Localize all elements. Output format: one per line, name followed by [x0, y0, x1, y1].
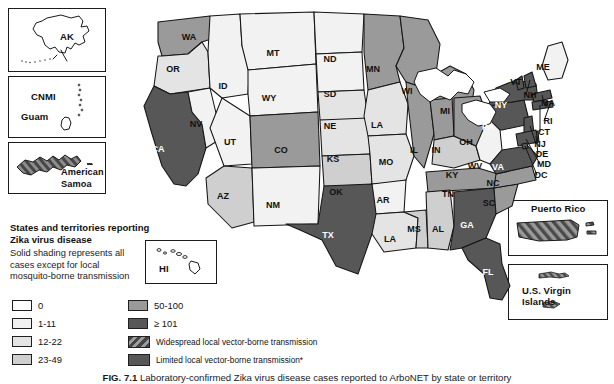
figure-zika-map: AK CNMI Guam American [0, 0, 614, 384]
state-label-wi: WI [402, 86, 413, 96]
state-label-dc: DC [535, 170, 548, 180]
inset-cnmi-guam: CNMI Guam [8, 76, 106, 138]
state-label-ny: NY [495, 100, 508, 110]
state-label-sc: SC [483, 198, 496, 208]
legend-swatch-3 [12, 354, 32, 365]
state-mn [364, 14, 404, 90]
state-nm [252, 166, 320, 226]
inset-american-samoa: American Samoa [8, 142, 106, 194]
legend-label-1: 1-11 [38, 318, 56, 329]
legend-label-limited: Limited local vector-borne transmission* [156, 355, 303, 365]
state-label-mn: MN [366, 64, 380, 74]
legend-note-line2: cases except for local [10, 260, 99, 270]
legend-swatch-2 [12, 336, 32, 347]
state-label-il: IL [410, 145, 419, 155]
legend-swatch-0 [12, 300, 32, 311]
legend-swatch-limited [128, 354, 150, 366]
legend-swatch-widespread [128, 336, 150, 348]
legend-note-line3: mosquito-borne transmission [10, 271, 129, 281]
state-label-az: AZ [217, 191, 229, 201]
state-mt [240, 12, 316, 70]
inset-alaska: AK [8, 8, 106, 72]
state-label-ks: KS [327, 154, 340, 164]
state-label-sd: SD [324, 89, 337, 99]
legend-item-widespread: Widespread local vector-borne transmissi… [128, 336, 317, 348]
state-label-nj: NJ [534, 139, 546, 149]
inset-label-ak: AK [60, 31, 74, 42]
state-label-ne: NE [324, 121, 337, 131]
inset-label-guam: Guam [21, 111, 48, 122]
legend-label-0: 0 [38, 300, 43, 311]
states-layer [144, 12, 568, 300]
state-label-mi: MI [440, 106, 450, 116]
state-in [430, 98, 454, 140]
state-label-ky: KY [446, 170, 459, 180]
state-label-ar: AR [377, 195, 390, 205]
state-label-or: OR [166, 64, 180, 74]
state-label-ga: GA [460, 220, 474, 230]
legend-title-line2: Zika virus disease [10, 234, 92, 245]
state-label-ms: MS [407, 224, 421, 234]
state-label-id: ID [219, 81, 229, 91]
state-label-co: CO [274, 145, 288, 155]
state-label-nc: NC [487, 178, 500, 188]
state-label-nm: NM [266, 200, 280, 210]
legend-swatch-1 [12, 318, 32, 329]
legend-item-2: 12-22 [12, 336, 62, 347]
state-label-fl: FL [483, 267, 494, 277]
legend-item-1: 1-11 [12, 318, 56, 329]
state-label-ca: CA [152, 144, 165, 154]
state-label-wv: WV [468, 161, 483, 171]
inset-label-samoa: Samoa [61, 179, 92, 189]
state-label-de: DE [536, 149, 549, 159]
us-map: WAORCANVIDMTWYUTCOAZNMNDSDNEKSOKTXMNLAMO… [118, 8, 578, 308]
legend-item-5: ≥ 101 [128, 318, 177, 329]
figure-number: FIG. 7.1 [103, 372, 138, 383]
state-label-ma: MA [541, 98, 555, 108]
state-az [206, 166, 254, 228]
state-label-ut: UT [224, 137, 236, 147]
inset-label-cnmi: CNMI [31, 91, 56, 102]
state-label-md: MD [537, 159, 551, 169]
state-label-mt: MT [267, 48, 280, 58]
state-label-pa: PA [482, 122, 494, 132]
legend-item-3: 23-49 [12, 354, 62, 365]
state-ut [210, 98, 252, 166]
state-label-nh: NH [524, 90, 537, 100]
cnmi-guam-shape [9, 77, 105, 137]
state-label-mo: MO [379, 157, 394, 167]
alaska-shape [9, 9, 105, 71]
state-label-al: AL [432, 224, 444, 234]
legend-label-3: 23-49 [38, 354, 62, 365]
inset-label-american: American [61, 167, 104, 177]
state-label-la: LA [384, 234, 396, 244]
legend-item-0: 0 [12, 300, 43, 311]
state-label-ct: CT [538, 127, 550, 137]
state-label-vt: VT [510, 77, 522, 87]
state-label-ri: RI [544, 116, 553, 126]
state-label-va: VA [492, 162, 504, 172]
figure-caption-text: Laboratory-confirmed Zika virus disease … [140, 372, 511, 383]
legend-item-limited: Limited local vector-borne transmission* [128, 354, 303, 366]
state-wy [248, 64, 318, 116]
state-label-in: IN [432, 145, 441, 155]
state-sc [494, 184, 518, 214]
state-label-ia: LA [371, 120, 383, 130]
legend-label-widespread: Widespread local vector-borne transmissi… [156, 337, 317, 347]
state-label-wy: WY [262, 93, 277, 103]
state-label-ok: OK [329, 187, 343, 197]
legend-label-2: 12-22 [38, 336, 62, 347]
state-nd [314, 12, 364, 54]
legend-note-line1: Solid shading represents all [10, 248, 124, 258]
state-co [250, 112, 320, 168]
legend-label-5: ≥ 101 [154, 318, 177, 329]
state-label-tx: TX [322, 230, 334, 240]
figure-caption: FIG. 7.1 Laboratory-confirmed Zika virus… [0, 372, 614, 383]
state-label-nv: NV [190, 119, 203, 129]
state-label-oh: OH [459, 137, 473, 147]
state-label-nd: ND [324, 54, 337, 64]
legend-swatch-5 [128, 318, 148, 329]
state-label-me: ME [536, 62, 550, 72]
state-label-tn: TN [442, 189, 454, 199]
state-label-wa: WA [182, 32, 197, 42]
